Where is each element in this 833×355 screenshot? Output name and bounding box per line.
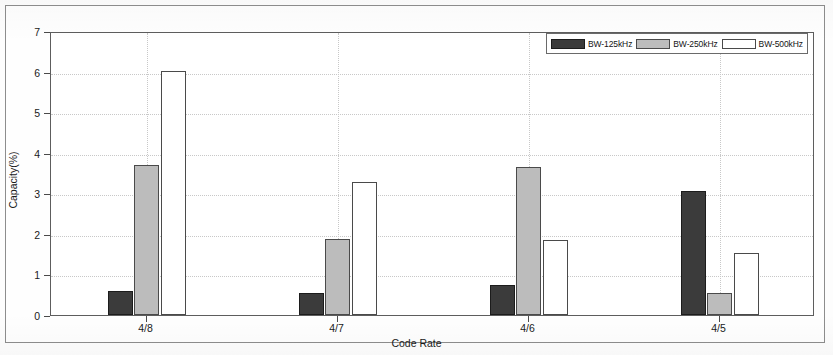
bar-chart-figure: 01234567 Capacity(%) Code Rate 4/84/74/6… [0, 0, 833, 355]
x-axis-title: Code Rate [0, 337, 833, 349]
x-tick-label-4-6: 4/6 [498, 322, 558, 335]
legend-entry-BW-125kHz: BW-125kHz [551, 39, 632, 49]
y-tick-label: 6 [6, 67, 40, 78]
bar-4-7-BW-125kHz [299, 293, 324, 315]
chart-legend: BW-125kHzBW-250kHzBW-500kHz [546, 33, 808, 54]
gridline-vertical [720, 33, 721, 315]
legend-swatch-icon [722, 39, 756, 49]
y-tick-label: 7 [6, 27, 40, 38]
y-tick-mark [44, 73, 50, 74]
y-tick-mark [44, 235, 50, 236]
y-tick-label: 0 [6, 311, 40, 322]
legend-entry-BW-250kHz: BW-250kHz [636, 39, 717, 49]
legend-swatch-icon [636, 39, 670, 49]
y-axis-title: Capacity(%) [7, 151, 19, 208]
legend-label: BW-250kHz [673, 39, 717, 49]
x-tick-label-4-5: 4/5 [689, 322, 749, 335]
bar-4-7-BW-250kHz [325, 239, 350, 315]
plot-area [50, 32, 814, 316]
y-tick-label: 5 [6, 108, 40, 119]
y-tick-label: 2 [6, 230, 40, 241]
legend-label: BW-500kHz [759, 39, 803, 49]
x-tick-label-4-8: 4/8 [116, 322, 176, 335]
y-tick-label: 1 [6, 270, 40, 281]
bar-4-8-BW-125kHz [108, 291, 133, 315]
bar-4-6-BW-250kHz [516, 167, 541, 315]
bar-4-5-BW-250kHz [707, 293, 732, 315]
bar-4-8-BW-500kHz [161, 71, 186, 315]
bar-4-6-BW-500kHz [543, 240, 568, 315]
y-tick-mark [44, 275, 50, 276]
bar-4-6-BW-125kHz [490, 285, 515, 315]
bar-4-5-BW-500kHz [734, 253, 759, 315]
x-tick-label-4-7: 4/7 [307, 322, 367, 335]
legend-swatch-icon [551, 39, 585, 49]
y-tick-mark [44, 113, 50, 114]
legend-entry-BW-500kHz: BW-500kHz [722, 39, 803, 49]
bar-4-7-BW-500kHz [352, 182, 377, 315]
y-tick-mark [44, 194, 50, 195]
bar-4-5-BW-125kHz [681, 191, 706, 315]
bar-4-8-BW-250kHz [134, 165, 159, 315]
y-tick-mark [44, 32, 50, 33]
y-tick-mark [44, 316, 50, 317]
y-tick-mark [44, 154, 50, 155]
legend-label: BW-125kHz [588, 39, 632, 49]
